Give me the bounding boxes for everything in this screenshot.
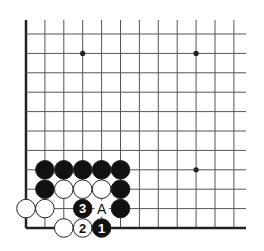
black-stone	[73, 161, 92, 180]
stones: 321	[17, 161, 130, 238]
markers: A	[95, 201, 109, 217]
white-stone	[36, 199, 55, 218]
star-point	[194, 167, 199, 172]
move-number: 1	[98, 221, 105, 236]
move-number: 2	[79, 221, 86, 236]
black-stone-1: 1	[92, 219, 111, 238]
go-board: 321 A	[0, 0, 264, 251]
white-stone-2: 2	[73, 219, 92, 238]
white-stone	[73, 180, 92, 199]
star-point	[80, 51, 85, 56]
white-stone	[55, 219, 74, 238]
black-stone	[111, 161, 130, 180]
move-number: 3	[79, 201, 86, 216]
point-label-A: A	[97, 201, 107, 217]
white-stone	[92, 180, 111, 199]
white-stone	[55, 180, 74, 199]
black-stone	[92, 161, 111, 180]
black-stone	[111, 199, 130, 218]
white-stone	[17, 199, 36, 218]
black-stone	[55, 161, 74, 180]
black-stone	[36, 161, 55, 180]
black-stone	[111, 180, 130, 199]
black-stone	[36, 180, 55, 199]
star-point	[194, 51, 199, 56]
black-stone-3: 3	[73, 199, 92, 218]
